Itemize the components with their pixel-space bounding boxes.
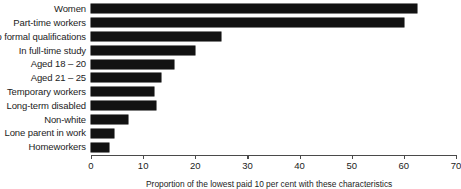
- bar-row: [91, 43, 456, 57]
- x-axis-caption: Proportion of the lowest paid 10 per cen…: [146, 180, 392, 188]
- bar: [91, 87, 154, 96]
- bar: [91, 18, 404, 27]
- bar: [91, 4, 417, 13]
- x-axis-tick-label: 60: [399, 161, 410, 171]
- category-axis-labels: Women Part-time workers No formal qualif…: [0, 2, 86, 154]
- bar-row: [91, 16, 456, 30]
- category-label: Lone parent in work: [0, 126, 86, 140]
- bar-row: [91, 30, 456, 44]
- category-label: Homeworkers: [0, 140, 86, 154]
- x-axis-tick: [352, 155, 353, 159]
- x-axis-tick: [456, 155, 457, 159]
- x-axis-tick: [195, 155, 196, 159]
- category-label: Women: [0, 2, 86, 16]
- bar: [91, 115, 128, 124]
- bar-row: [91, 99, 456, 113]
- x-axis-tick-label: 10: [138, 161, 149, 171]
- x-axis-tick-label: 50: [346, 161, 357, 171]
- bar-row: [91, 71, 456, 85]
- bar: [91, 143, 109, 152]
- category-label: Long-term disabled: [0, 99, 86, 113]
- bar-rows: [91, 2, 456, 154]
- x-axis-tick-label: 70: [451, 161, 461, 171]
- bar-row: [91, 126, 456, 140]
- bar: [91, 73, 161, 82]
- category-label: Part-time workers: [0, 16, 86, 30]
- category-label: No formal qualifications: [0, 30, 86, 44]
- bar-row: [91, 85, 456, 99]
- bar: [91, 32, 221, 41]
- x-axis-tick: [91, 155, 92, 159]
- category-label: Aged 18 – 20: [0, 57, 86, 71]
- bar: [91, 101, 156, 110]
- bar-row: [91, 140, 456, 154]
- plot-area: [91, 2, 456, 154]
- category-label: In full-time study: [0, 43, 86, 57]
- x-axis-tick: [404, 155, 405, 159]
- x-axis: 010203040506070: [91, 155, 456, 156]
- bar-row: [91, 113, 456, 127]
- x-axis-tick-label: 0: [88, 161, 93, 171]
- bar: [91, 46, 195, 55]
- x-axis-tick-label: 30: [242, 161, 253, 171]
- category-label: Temporary workers: [0, 85, 86, 99]
- bar: [91, 60, 174, 69]
- category-label: Non-white: [0, 113, 86, 127]
- x-axis-tick: [143, 155, 144, 159]
- x-axis-tick: [300, 155, 301, 159]
- bar-row: [91, 57, 456, 71]
- category-label: Aged 21 – 25: [0, 71, 86, 85]
- x-axis-tick: [247, 155, 248, 159]
- bar: [91, 129, 114, 138]
- bar-row: [91, 2, 456, 16]
- x-axis-tick-label: 40: [294, 161, 305, 171]
- x-axis-tick-label: 20: [190, 161, 201, 171]
